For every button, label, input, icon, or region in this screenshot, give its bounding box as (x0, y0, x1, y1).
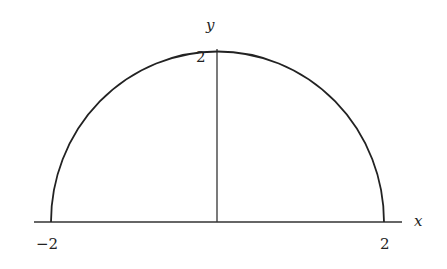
semicircle-chart: y x 2 −2 2 (0, 0, 447, 269)
x-max-tick-label: 2 (380, 235, 390, 253)
y-max-tick-label: 2 (196, 48, 206, 66)
y-axis-label: y (205, 16, 215, 34)
x-min-tick-label: −2 (36, 235, 58, 253)
x-axis-label: x (414, 212, 423, 230)
